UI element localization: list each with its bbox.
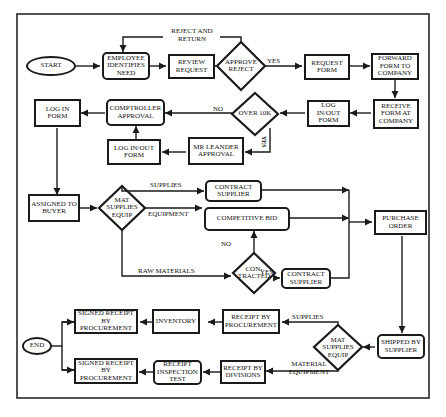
mat-supplies-equip-decision-1: MAT SUPPLIES EQUIP [104, 196, 140, 220]
no-contracted-label: NO [221, 240, 231, 248]
receipt-inspection-test-node: RECEIPT INSPECTION TEST [153, 360, 202, 385]
purchase-order-node: PURCHASE ORDER [374, 210, 427, 235]
forward-form-node: FORWARD FORM TO COMPANY [371, 53, 419, 80]
log-in-form-node: LOG IN FORM [34, 99, 81, 127]
inventory-node: INVENTORY [152, 309, 200, 334]
yes-over10k-label: YES [260, 136, 268, 148]
shipped-by-supplier-node: SHIPPED BY SUPPLIER [377, 334, 425, 359]
end-node: END [22, 337, 52, 355]
review-request-node: REVIEW REQUEST [168, 54, 215, 79]
request-form-node: REQUEST FORM [304, 54, 350, 80]
mr-leander-approval-node: MR LEANDER APPROVAL [188, 137, 244, 165]
receipt-by-procurement-node: RECEIPT BY PROCUREMENT [222, 309, 280, 334]
material-equipment-label: MATERIAL EQUIPMENT [284, 360, 334, 376]
over-10k-decision: OVER 10K [238, 104, 272, 124]
signed-receipt-node-2: SIGNED RECEIPT BY PROCUREMENT [74, 358, 138, 384]
contract-supplier-node-1: CONTRACT SUPPLIER [205, 180, 262, 202]
approve-reject-decision: APPROVE REJECT [222, 56, 260, 76]
signed-receipt-node-1: SIGNED RECEIPT BY PROCUREMENT [74, 309, 138, 334]
log-inout-form-node-1: LOG IN/OUT FORM [307, 100, 350, 127]
supplies-label-2: SUPPLIES [292, 313, 324, 321]
assigned-to-buyer-node: ASSIGNED TO BUYER [28, 194, 80, 222]
receive-form-node: RECEIVE FORM AT COMPANY [373, 99, 419, 129]
yes-approve-label: YES [267, 57, 280, 65]
contract-supplier-node-2: CONTRACT SUPPLIER [281, 268, 331, 289]
raw-materials-label: RAW MATERIALS [138, 267, 195, 275]
equipment-label: EQUIPMENT [148, 210, 188, 218]
supplies-label-1: SUPPLIES [150, 181, 182, 189]
reject-and-return-label: REJECT AND RETURN [165, 27, 219, 43]
comptroller-approval-node: COMPTROLLER APPROVAL [106, 99, 165, 126]
start-node: START [26, 56, 76, 76]
employee-identifies-need-node: EMPLOYEE IDENTIFIES NEED [102, 52, 150, 80]
mat-supplies-equip-decision-2: MAT SUPPLIES EQUIP [320, 336, 356, 360]
receipt-by-divisions-node: RECEIPT BY DIVISIONS [220, 360, 266, 384]
no-over10k-label: NO [213, 105, 223, 113]
log-inout-form-node-2: LOG IN/OUT FORM [107, 139, 161, 165]
yes-contracted-label: YES [260, 268, 273, 276]
competitive-bid-node: COMPETITIVE BID [204, 207, 290, 231]
